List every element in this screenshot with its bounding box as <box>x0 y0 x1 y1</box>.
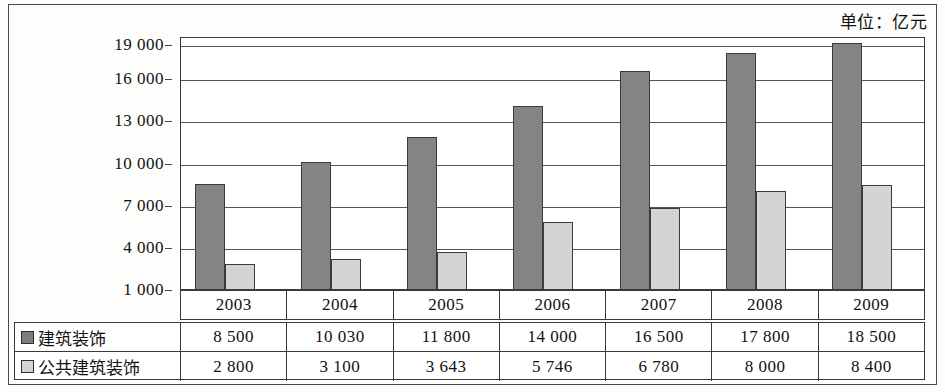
unit-caption: 单位：亿元 <box>840 8 928 33</box>
y-axis-tick-mark <box>165 206 172 207</box>
table-cell-value: 2 800 <box>181 352 287 381</box>
bar-dark <box>832 43 862 289</box>
table-cell-value: 10 030 <box>287 323 393 351</box>
bar-light <box>543 222 573 289</box>
table-cell-value: 5 746 <box>500 352 606 381</box>
legend-label-series-1: 建筑装饰 <box>38 325 106 350</box>
bar-group <box>606 38 712 289</box>
bar-group <box>287 38 393 289</box>
y-axis-tick-mark <box>165 164 172 165</box>
table-cell-value: 8 400 <box>819 352 924 381</box>
x-axis-year-label: 2004 <box>287 291 393 319</box>
y-axis-tick-mark <box>165 79 172 80</box>
y-axis-tick-label: 1 000 <box>123 280 164 300</box>
y-axis-tick-mark <box>165 248 172 249</box>
bar-group <box>181 38 287 289</box>
bar-pair <box>832 43 892 289</box>
table-cell-value: 3 643 <box>394 352 500 381</box>
bar-dark <box>620 71 650 289</box>
y-axis-tick-label: 19 000 <box>114 35 164 55</box>
x-axis-year-label: 2007 <box>606 291 712 319</box>
x-axis-year-label: 2009 <box>819 291 924 319</box>
legend-cell-series-1: 建筑装饰 <box>15 323 181 351</box>
bar-dark <box>301 162 331 289</box>
x-axis-year-row: 2003200420052006200720082009 <box>180 290 925 320</box>
table-row: 公共建筑装饰 2 8003 1003 6435 7466 7808 0008 4… <box>15 352 924 381</box>
bar-light <box>331 259 361 289</box>
dark-square-swatch-icon <box>21 331 34 344</box>
bar-light <box>225 264 255 289</box>
y-axis-tick-mark <box>165 290 172 291</box>
legend-label-series-2: 公共建筑装饰 <box>38 354 140 379</box>
table-cell-value: 6 780 <box>606 352 712 381</box>
data-table: 建筑装饰 8 50010 03011 80014 00016 50017 800… <box>14 322 925 380</box>
table-row: 建筑装饰 8 50010 03011 80014 00016 50017 800… <box>15 323 924 352</box>
bar-pair <box>195 184 255 289</box>
y-axis-tick-mark <box>165 45 172 46</box>
y-axis-tick-label: 16 000 <box>114 69 164 89</box>
y-axis-tick-mark <box>165 121 172 122</box>
bar-pair <box>301 162 361 289</box>
table-cell-value: 3 100 <box>287 352 393 381</box>
bar-light <box>437 252 467 289</box>
bar-dark <box>726 53 756 289</box>
y-axis-tick-label: 10 000 <box>114 154 164 174</box>
bar-light <box>756 191 786 289</box>
y-axis-tick-label: 4 000 <box>123 238 164 258</box>
table-cell-value: 18 500 <box>819 323 924 351</box>
table-cell-value: 14 000 <box>500 323 606 351</box>
bar-pair <box>407 137 467 289</box>
bar-dark <box>407 137 437 289</box>
bar-group <box>499 38 605 289</box>
table-cell-value: 8 000 <box>712 352 818 381</box>
bar-pair <box>620 71 680 289</box>
bar-pair <box>513 106 573 289</box>
table-cell-value: 11 800 <box>394 323 500 351</box>
bar-group <box>818 38 924 289</box>
bar-light <box>650 208 680 289</box>
bar-dark <box>513 106 543 289</box>
x-axis-year-label: 2008 <box>712 291 818 319</box>
y-axis-tick-label: 7 000 <box>123 196 164 216</box>
bar-light <box>862 185 892 289</box>
x-axis-year-label: 2006 <box>500 291 606 319</box>
x-axis-year-label: 2005 <box>394 291 500 319</box>
bar-group <box>393 38 499 289</box>
bar-group <box>712 38 818 289</box>
plot-area <box>180 37 925 290</box>
table-cell-value: 16 500 <box>606 323 712 351</box>
table-cell-value: 8 500 <box>181 323 287 351</box>
bar-groups <box>181 38 924 289</box>
y-axis-tick-label: 13 000 <box>114 111 164 131</box>
x-axis-year-label: 2003 <box>181 291 287 319</box>
legend-cell-series-2: 公共建筑装饰 <box>15 352 181 381</box>
bar-dark <box>195 184 225 289</box>
chart-figure: 单位：亿元 19 00016 00013 00010 0007 0004 000… <box>0 0 945 392</box>
light-square-swatch-icon <box>21 360 34 373</box>
y-axis-labels: 19 00016 00013 00010 0007 0004 0001 000 <box>60 37 172 290</box>
bar-pair <box>726 53 786 289</box>
table-cell-value: 17 800 <box>712 323 818 351</box>
